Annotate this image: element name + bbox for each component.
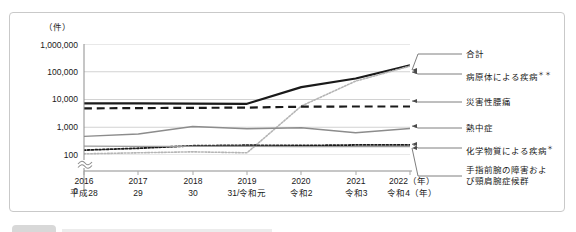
- series-label-heatstroke: 熱中症: [466, 123, 493, 134]
- series-label-total: 合計: [466, 49, 484, 60]
- leader-lines: [0, 0, 576, 232]
- series-label-disaster-lumbago: 災害性腰痛: [466, 97, 511, 108]
- bottom-rule: [62, 229, 272, 232]
- series-label-hand-forearm-disorder: 手指前腕の障害およ び頸肩腕症候群: [466, 165, 562, 187]
- bottom-chip: [12, 225, 56, 232]
- series-label-chemical-disease: 化学物質による疾病＊: [466, 143, 554, 157]
- chart-figure: （件） 1,000,000 100,000 10,000 1,000 100 0…: [0, 0, 576, 232]
- series-label-pathogen-disease: 病原体による疾病＊＊: [466, 69, 551, 83]
